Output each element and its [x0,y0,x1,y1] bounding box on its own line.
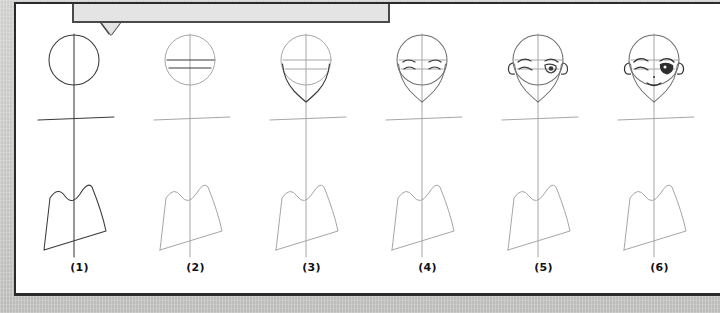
shoulder-line [154,117,230,120]
step-label-4: (4) [370,261,485,274]
tutorial-step-5[interactable]: (5) [486,22,601,292]
step-2-drawing [138,22,253,262]
shoulder-line [502,117,578,120]
shoulder-line [618,117,694,120]
shoulder-line [38,117,114,120]
right-eye-highlight [664,66,667,69]
tooltip-text [74,2,388,21]
step-label-3: (3) [254,261,369,274]
torso-shape [44,185,106,250]
torso-shape [160,185,222,250]
step-label-1: (1) [22,261,137,274]
tutorial-page: (1) (2) [14,2,720,295]
torso-shape [392,185,454,250]
tutorial-step-1[interactable]: (1) [22,22,137,292]
step-5-drawing [486,22,601,262]
figure-strip: (1) (2) [16,4,718,293]
tutorial-step-4[interactable]: (4) [370,22,485,292]
torso-shape [508,185,570,250]
torso-shape [276,185,338,250]
step-1-drawing [22,22,137,262]
tooltip-pointer-icon [102,23,120,35]
right-eye-pupil [549,66,554,71]
tooltip-balloon[interactable] [72,2,390,23]
tutorial-step-6[interactable]: (6) [602,22,717,292]
shoulder-line [270,117,346,120]
torso-shape [624,185,686,250]
shoulder-line [386,117,462,120]
tutorial-step-2[interactable]: (2) [138,22,253,292]
nose-icon [653,76,655,78]
step-6-drawing [602,22,717,262]
tutorial-step-3[interactable]: (3) [254,22,369,292]
step-label-5: (5) [486,261,601,274]
step-label-2: (2) [138,261,253,274]
step-label-6: (6) [602,261,717,274]
right-eye-shaded [660,63,672,74]
page-bottom-border [14,293,720,296]
step-3-drawing [254,22,369,262]
step-4-drawing [370,22,485,262]
